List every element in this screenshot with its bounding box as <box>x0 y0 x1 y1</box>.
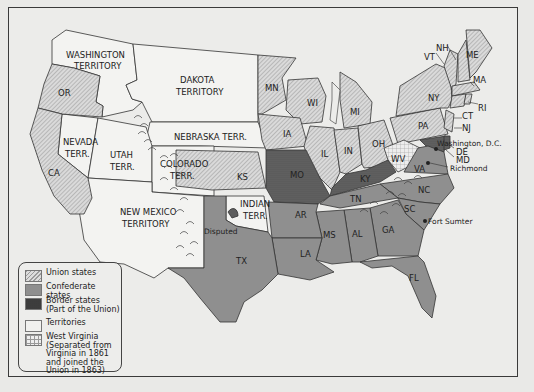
label-IL: IL <box>321 149 329 159</box>
label-IN: IN <box>344 146 353 156</box>
label-new-mexico-2: TERRITORY <box>121 219 170 229</box>
legend-item-border: Border states(Part of the Union) <box>25 297 120 314</box>
label-MS: MS <box>323 230 336 240</box>
label-utah-2: TERR. <box>109 162 135 172</box>
label-TN: TN <box>349 194 362 204</box>
label-dakota-2: TERRITORY <box>175 87 224 97</box>
state-NY <box>396 64 452 116</box>
label-LA: LA <box>300 249 311 259</box>
map-legend: Union states Confederate states Border s… <box>18 262 122 372</box>
confederate-swatch <box>25 284 42 296</box>
label-FL: FL <box>409 273 419 283</box>
label-richmond: Richmond <box>450 164 488 173</box>
label-nevada-2: TERR. <box>64 149 90 159</box>
label-PA: PA <box>418 121 429 131</box>
state-AR <box>268 202 322 238</box>
label-AR: AR <box>295 210 307 220</box>
state-NJ <box>444 110 454 132</box>
label-washington-territory-2: TERRITORY <box>73 61 122 71</box>
label-OH: OH <box>372 139 385 149</box>
state-MI <box>340 72 372 128</box>
label-VT: VT <box>424 52 436 62</box>
border-swatch <box>25 298 42 310</box>
legend-item-union: Union states <box>25 269 96 282</box>
fort-sumter-marker <box>423 219 427 223</box>
label-WI: WI <box>307 98 318 108</box>
label-OR: OR <box>58 88 71 98</box>
label-MN: MN <box>265 83 279 93</box>
label-fort-sumter: Fort Sumter <box>428 217 473 226</box>
label-AL: AL <box>352 229 363 239</box>
label-indian-2: TERR. <box>242 211 268 221</box>
label-colorado: COLORADO <box>160 159 209 169</box>
label-IA: IA <box>283 129 292 139</box>
legend-label-west-virginia: West Virginia (Separated from Virginia i… <box>46 333 112 376</box>
label-NY: NY <box>428 93 440 103</box>
richmond-marker <box>426 161 430 165</box>
label-MO: MO <box>290 170 304 180</box>
label-ME: ME <box>466 50 479 60</box>
label-NH: NH <box>436 43 449 53</box>
label-colorado-2: TERR. <box>169 171 195 181</box>
label-RI: RI <box>478 103 486 113</box>
label-indian: INDIAN <box>240 199 270 209</box>
label-nevada: NEVADA <box>63 137 98 147</box>
label-nebraska: NEBRASKA TERR. <box>174 132 247 142</box>
legend-label-border: Border states(Part of the Union) <box>46 297 120 314</box>
label-GA: GA <box>382 225 395 235</box>
label-KY: KY <box>360 174 371 184</box>
label-dakota: DAKOTA <box>180 75 215 85</box>
label-MI: MI <box>350 107 360 117</box>
label-NJ: NJ <box>462 123 471 133</box>
label-SC: SC <box>404 204 415 214</box>
label-VA: VA <box>414 164 425 174</box>
label-TX: TX <box>235 256 247 266</box>
state-FL <box>360 256 436 318</box>
label-washington-dc: Washington, D.C. <box>437 139 502 148</box>
territory-swatch <box>25 320 42 332</box>
legend-label-union: Union states <box>46 269 96 278</box>
label-MA: MA <box>473 75 486 85</box>
label-WV: WV <box>391 154 405 164</box>
union-swatch <box>25 270 42 282</box>
legend-label-territories: Territories <box>46 319 86 328</box>
legend-item-territories: Territories <box>25 319 86 332</box>
label-washington-territory: WASHINGTON <box>66 50 125 60</box>
state-KS <box>176 150 266 190</box>
west-virginia-swatch <box>25 334 42 346</box>
label-disputed: Disputed <box>204 227 238 236</box>
legend-item-west-virginia: West Virginia (Separated from Virginia i… <box>25 333 112 376</box>
label-new-mexico: NEW MEXICO <box>120 207 177 217</box>
label-CT: CT <box>462 111 474 121</box>
label-utah: UTAH <box>110 150 133 160</box>
label-KS: KS <box>237 172 248 182</box>
label-NC: NC <box>418 185 430 195</box>
label-CA: CA <box>48 168 60 178</box>
state-CT <box>450 94 466 108</box>
